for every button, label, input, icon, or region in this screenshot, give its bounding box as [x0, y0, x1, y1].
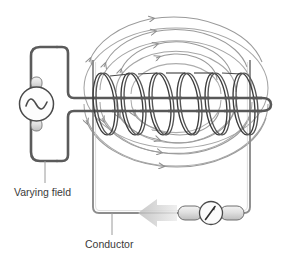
label-varying-field: Varying field — [14, 186, 71, 198]
meter-terminal-left — [178, 206, 202, 220]
meter-terminal-right — [220, 206, 244, 220]
diagram-canvas: Varying field Conductor — [0, 0, 300, 259]
induction-diagram: Varying field Conductor — [0, 0, 300, 259]
label-conductor: Conductor — [85, 238, 134, 250]
